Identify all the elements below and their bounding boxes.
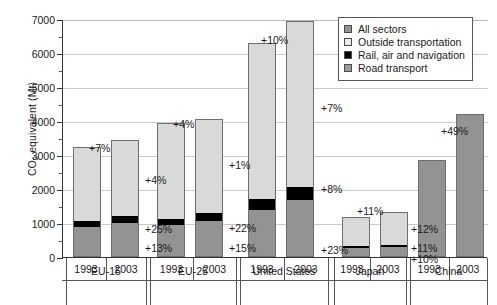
segment-rail-air-navigation [381,245,407,247]
legend-label: Rail, air and navigation [358,50,465,62]
segment-rail-air-navigation [196,213,222,221]
segment-outside-transportation [287,22,313,187]
y-axis-tick-label: 7000 [32,14,55,26]
segment-outside-transportation [381,213,407,245]
y-axis-minor-tick [59,37,63,38]
segment-outside-transportation [74,148,100,221]
annotation-united-states-outside: +7% [321,102,342,114]
y-axis-tick-label: 0 [49,252,55,264]
segment-rail-air-navigation [74,221,100,227]
bar-united-states-2003 [286,21,314,257]
chart-legend: All sectorsOutside transportationRail, a… [338,17,473,81]
x-axis-group-label: EU-15 [66,265,146,277]
x-axis-group-label: United States [240,265,328,277]
y-axis-minor-tick [59,241,63,242]
x-axis-group-label: EU-25 [150,265,236,277]
legend-label: Outside transportation [358,37,461,49]
y-axis-tick [57,122,63,123]
y-axis-tick-label: 4000 [32,116,55,128]
annotation-united-states-total: +10% [261,34,288,46]
y-axis-minor-tick [59,71,63,72]
legend-item: All sectors [344,24,465,36]
bar-eu-15-1993 [73,147,101,257]
bar-eu-25-1993 [157,123,185,257]
emissions-bar-chart: CO2 equivalent (Mt) 01000200030004000500… [0,0,497,305]
annotation-eu-25-total: +4% [173,118,194,130]
legend-swatch-icon [344,25,352,33]
legend-label: All sectors [358,24,406,36]
annotation-eu-25-outside: +1% [229,159,250,171]
y-axis-tick [57,88,63,89]
segment-road-transport [287,200,313,256]
legend-item: Outside transportation [344,37,465,49]
legend-label: Road transport [358,63,427,75]
x-axis-separator [328,258,329,305]
y-axis-minor-tick [59,105,63,106]
segment-road-transport [74,227,100,256]
segment-road-transport [112,223,138,256]
y-axis-tick [57,156,63,157]
x-axis-separator [146,258,147,305]
segment-rail-air-navigation [287,187,313,199]
bar-eu-25-2003 [195,119,223,257]
annotation-japan-total: +11% [357,205,383,217]
legend-swatch-icon [344,64,352,72]
segment-outside-transportation [249,44,275,198]
y-axis-tick-label: 2000 [32,184,55,196]
legend-item: Road transport [344,63,465,75]
y-axis-tick [57,20,63,21]
x-axis-separator [236,258,237,305]
x-axis-group-label: China [410,265,487,277]
y-axis-tick [57,190,63,191]
annotation-eu-25-rail: +22% [229,222,256,234]
y-axis-tick [57,54,63,55]
bar-eu-15-2003 [111,140,139,257]
y-axis-minor-tick [59,139,63,140]
segment-outside-transportation [112,141,138,216]
segment-road-transport [381,247,407,256]
y-axis-minor-tick [59,207,63,208]
annotation-eu-15-total: +7% [89,142,110,154]
legend-swatch-icon [344,51,352,59]
annotation-eu-25-road: +15% [229,242,256,254]
y-axis-tick-label: 5000 [32,82,55,94]
annotation-eu-15-rail: +25% [145,223,172,235]
x-axis-separator [487,258,488,305]
y-axis-tick-label: 6000 [32,48,55,60]
x-axis: 19932003EU-1519932003EU-2519932003United… [62,258,487,305]
legend-swatch-icon [344,38,352,46]
x-axis-separator [406,258,407,305]
segment-outside-transportation [196,120,222,213]
y-axis-title-pre: CO [26,160,38,176]
annotation-eu-15-road: +13% [145,242,172,254]
x-axis-divider [62,280,487,281]
x-axis-group-label: Japan [334,265,406,277]
annotation-china-total: +49% [441,125,468,137]
y-axis-tick-label: 1000 [32,218,55,230]
segment-outside-transportation [158,124,184,218]
y-axis-tick [57,224,63,225]
annotation-united-states-road: +23% [321,244,348,256]
y-axis-tick-label: 3000 [32,150,55,162]
segment-road-transport [196,221,222,256]
annotation-japan-outside: +12% [411,223,438,235]
annotation-eu-15-outside: +4% [145,174,166,186]
legend-item: Rail, air and navigation [344,50,465,62]
segment-rail-air-navigation [112,216,138,224]
y-axis-minor-tick [59,173,63,174]
annotation-united-states-rail: +8% [321,183,342,195]
segment-rail-air-navigation [249,199,275,210]
bar-japan-2003 [380,212,408,257]
segment-outside-transportation [343,218,369,246]
